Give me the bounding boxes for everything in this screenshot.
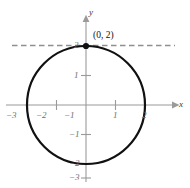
x-tick-label-1: 1	[113, 111, 118, 120]
x-tick-label--2: −2	[36, 111, 47, 120]
y-axis	[83, 15, 90, 182]
y-tick-label--2: −2	[69, 159, 80, 168]
x-tick-label--3: −3	[6, 111, 17, 120]
graph-figure: −3 −2 −1 1 2 2 1 −1 −2 −3 x y (0, 2)	[0, 0, 190, 188]
x-axis-label: x	[179, 100, 183, 109]
y-tick-label--3: −3	[69, 173, 80, 182]
point-marker-0-2	[83, 43, 89, 49]
y-axis-label: y	[89, 8, 93, 17]
coordinate-plane-svg	[0, 0, 190, 188]
x-tick-label-2: 2	[142, 111, 147, 120]
x-tick-label--1: −1	[64, 111, 75, 120]
y-tick-label--1: −1	[69, 130, 80, 139]
y-tick-label-1: 1	[74, 71, 79, 80]
y-tick-label-2: 2	[74, 41, 79, 50]
x-axis	[6, 102, 180, 109]
point-label-0-2: (0, 2)	[93, 31, 114, 41]
